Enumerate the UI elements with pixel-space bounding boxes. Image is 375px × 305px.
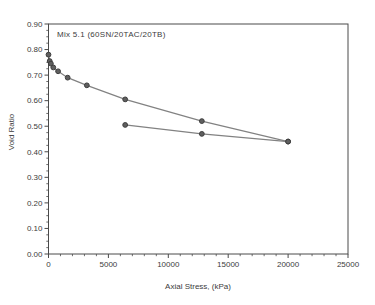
y-tick-label: 0.60: [27, 96, 43, 105]
data-point-loading: [199, 119, 204, 124]
data-point-loading: [56, 69, 61, 74]
x-tick-label: 20000: [277, 260, 300, 269]
chart: 0.000.100.200.300.400.500.600.700.800.90…: [0, 0, 375, 305]
data-point-loading: [51, 65, 56, 70]
chart-background: [0, 0, 375, 305]
y-tick-label: 0.50: [27, 122, 43, 131]
x-tick-label: 10000: [157, 260, 180, 269]
y-axis-label: Void Ratio: [7, 113, 16, 150]
data-point-loading: [84, 83, 89, 88]
x-tick-label: 15000: [217, 260, 240, 269]
y-tick-label: 0.80: [27, 45, 43, 54]
y-tick-label: 0.40: [27, 148, 43, 157]
data-point-unloading: [199, 131, 204, 136]
consolidation-chart-figure: 0.000.100.200.300.400.500.600.700.800.90…: [0, 0, 375, 305]
x-tick-label: 5000: [100, 260, 118, 269]
y-tick-label: 0.10: [27, 224, 43, 233]
data-point-unloading: [123, 123, 128, 128]
data-point-unloading: [286, 139, 291, 144]
y-tick-label: 0.20: [27, 199, 43, 208]
data-point-loading: [123, 97, 128, 102]
y-tick-label: 0.00: [27, 250, 43, 259]
plot-annotation: Mix 5.1 (60SN/20TAC/20TB): [57, 30, 166, 39]
y-tick-label: 0.90: [27, 20, 43, 29]
y-tick-label: 0.70: [27, 71, 43, 80]
data-point-loading: [46, 52, 51, 57]
y-tick-label: 0.30: [27, 173, 43, 182]
x-tick-label: 0: [46, 260, 51, 269]
data-point-loading: [65, 75, 70, 80]
x-tick-label: 25000: [337, 260, 360, 269]
x-axis-label: Axial Stress, (kPa): [165, 282, 231, 291]
